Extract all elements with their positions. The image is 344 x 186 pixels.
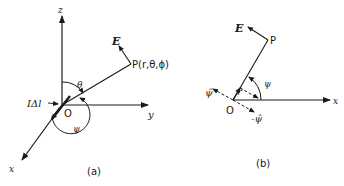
current-element-label: IΔl <box>26 98 41 109</box>
x-axis-label-b: x <box>333 96 338 106</box>
neg-psi-hat-label: -ψ̂ <box>251 113 262 124</box>
psi-hat-arrow <box>213 89 233 100</box>
e-field-arrow <box>119 46 131 64</box>
e-field-label: E <box>111 35 121 48</box>
neg-psi-hat-arrow <box>233 100 254 112</box>
caption-b: (b) <box>256 158 270 169</box>
r-hat-label: r̂ <box>237 86 243 97</box>
z-axis-label: z <box>57 5 63 15</box>
origin-label-b: O <box>226 105 234 116</box>
y-axis-label: y <box>147 109 154 120</box>
psi-label-b: ψ <box>264 79 272 89</box>
caption-a: (a) <box>87 166 101 177</box>
point-label: P(r,θ,ϕ) <box>132 59 169 70</box>
panel-a: z y x O P(r,θ,ϕ) E IΔl θ ψ (a) <box>9 5 169 177</box>
x-axis-label: x <box>9 164 14 174</box>
e-field-label-b: E <box>234 22 244 35</box>
diagram-canvas: z y x O P(r,θ,ϕ) E IΔl θ ψ (a) O P E x r… <box>0 0 344 186</box>
theta-label: θ <box>77 80 83 90</box>
dashed-projection <box>240 88 258 98</box>
panel-b: O P E x r̂ ψ̂ -ψ̂ ψ (b) <box>205 22 338 169</box>
origin-label: O <box>64 108 72 119</box>
e-field-arrow-b <box>248 27 268 40</box>
radius-line <box>62 64 131 105</box>
psi-hat-label: ψ̂ <box>205 87 213 98</box>
psi-label: ψ <box>73 124 81 134</box>
point-label-b: P <box>270 35 276 46</box>
